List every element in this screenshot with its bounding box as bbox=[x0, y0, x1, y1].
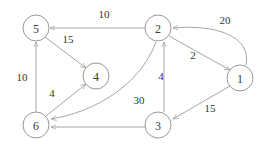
graph-node-1: 1 bbox=[227, 65, 253, 91]
graph-canvas: 101510430422015 521463 bbox=[0, 0, 265, 147]
graph-node-3: 3 bbox=[145, 112, 171, 138]
edge-weight-3-to-6: 30 bbox=[134, 94, 146, 106]
nodes-layer: 521463 bbox=[23, 15, 253, 138]
node-label-4: 4 bbox=[93, 70, 99, 84]
edge-weight-6-to-4: 4 bbox=[49, 87, 55, 99]
graph-edge-1-to-2 bbox=[173, 27, 247, 65]
graph-node-4: 4 bbox=[83, 63, 109, 89]
graph-node-5: 5 bbox=[23, 15, 49, 41]
edge-weight-1-to-2: 20 bbox=[220, 14, 232, 26]
graph-node-2: 2 bbox=[145, 15, 171, 41]
edge-weight-3-to-2: 4 bbox=[158, 70, 164, 82]
graph-figure: 101510430422015 521463 bbox=[0, 0, 265, 147]
edge-weight-2-to-5: 10 bbox=[99, 8, 111, 20]
node-label-3: 3 bbox=[155, 119, 161, 133]
edge-weight-2-to-1: 2 bbox=[190, 49, 196, 61]
node-label-6: 6 bbox=[33, 119, 39, 133]
graph-edge-2-to-1 bbox=[169, 36, 230, 70]
edge-weight-6-to-5: 10 bbox=[17, 71, 29, 83]
graph-node-6: 6 bbox=[23, 112, 49, 138]
graph-edge-1-to-3 bbox=[173, 86, 230, 119]
edge-weight-1-to-3: 15 bbox=[205, 102, 217, 114]
node-label-2: 2 bbox=[155, 22, 161, 36]
edge-weight-5-to-4: 15 bbox=[63, 33, 75, 45]
node-label-5: 5 bbox=[33, 22, 39, 36]
node-label-1: 1 bbox=[237, 72, 243, 86]
